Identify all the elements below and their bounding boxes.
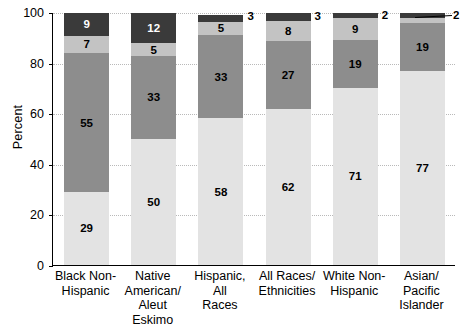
bar-segment[interactable]: 9 — [64, 13, 109, 36]
segment-callout-label: 3 — [315, 10, 321, 22]
bar-segment[interactable]: 2 — [333, 13, 378, 18]
bar-segment[interactable]: 71 — [333, 88, 378, 265]
bar-2[interactable]: 5033512 — [131, 13, 176, 265]
bar-segment[interactable]: 5 — [131, 43, 176, 56]
bar-segment[interactable]: 58 — [198, 118, 243, 265]
bar-1[interactable]: 295579 — [64, 13, 109, 265]
x-tick-label-line: Asian/ — [388, 269, 455, 284]
segment-value-label: 55 — [80, 117, 93, 129]
y-tick-20: 20 — [4, 215, 44, 228]
x-tick-label-line: Races — [186, 298, 253, 313]
x-tick-label-3: Hispanic,AllRaces — [186, 269, 253, 313]
plot-area: 2955795033512583353622783711992771922 — [52, 13, 455, 266]
x-tick-label-line: Hispanic, — [186, 269, 253, 284]
x-tick-label-line: American/ — [119, 284, 186, 299]
segment-value-label: 29 — [80, 222, 93, 234]
bar-5[interactable]: 711992 — [333, 13, 378, 265]
segment-value-label: 8 — [285, 25, 291, 37]
bar-6[interactable]: 771922 — [400, 13, 445, 265]
segment-value-label: 58 — [215, 186, 228, 198]
segment-value-label: 5 — [151, 44, 157, 56]
segment-callout-label: 3 — [247, 10, 253, 22]
bar-segment[interactable]: 29 — [64, 192, 109, 265]
y-tick-60: 60 — [4, 114, 44, 127]
x-tick-label-line: Hispanic — [321, 284, 388, 299]
x-tick-label-line: Eskimo — [119, 313, 186, 328]
x-tick-label-line: Aleut — [119, 298, 186, 313]
bar-segment[interactable]: 3 — [266, 13, 311, 21]
segment-value-label: 19 — [416, 41, 429, 53]
segment-value-label: 7 — [83, 38, 89, 50]
x-tick-label-line: White Non- — [321, 269, 388, 284]
segment-value-label: 19 — [349, 58, 362, 70]
bar-segment[interactable]: 3 — [198, 15, 243, 23]
x-tick-label-line: All Races/ — [254, 269, 321, 284]
y-tick-40: 40 — [4, 165, 44, 178]
y-tick-label: 0 — [4, 260, 44, 273]
bar-3[interactable]: 583353 — [198, 13, 243, 265]
x-tick-label-line: Islander — [388, 298, 455, 313]
x-tick-label-6: Asian/PacificIslander — [388, 269, 455, 313]
x-tick-label-line: All — [186, 284, 253, 299]
bar-segment[interactable]: 7 — [64, 36, 109, 54]
bar-segment[interactable]: 33 — [198, 35, 243, 118]
stacked-bar-chart: Percent 020406080100 2955795033512583353… — [0, 0, 473, 335]
bar-segment[interactable]: 8 — [266, 21, 311, 41]
x-tick-label-1: Black Non-Hispanic — [52, 269, 119, 298]
bar-4[interactable]: 622783 — [266, 13, 311, 265]
segment-value-label: 62 — [282, 181, 295, 193]
segment-callout-label: 2 — [382, 9, 388, 21]
bar-segment[interactable]: 2 — [400, 18, 445, 23]
x-tick-label-5: White Non-Hispanic — [321, 269, 388, 298]
y-tick-label: 60 — [4, 108, 44, 121]
y-tick-100: 100 — [4, 13, 44, 26]
segment-value-label: 9 — [352, 23, 358, 35]
segment-value-label: 71 — [349, 170, 362, 182]
x-tick-label-4: All Races/Ethnicities — [254, 269, 321, 298]
bar-segment[interactable]: 55 — [64, 53, 109, 192]
bar-group: 2955795033512583353622783711992771922 — [53, 13, 455, 265]
x-tick-label-line: Pacific — [388, 284, 455, 299]
bar-segment[interactable]: 9 — [333, 18, 378, 40]
x-tick-label-line: Black Non- — [52, 269, 119, 284]
x-tick-label-line: Native — [119, 269, 186, 284]
x-tick-label-line: Hispanic — [52, 284, 119, 299]
segment-value-label: 50 — [147, 196, 160, 208]
segment-value-label: 77 — [416, 162, 429, 174]
y-tick-80: 80 — [4, 64, 44, 77]
bar-segment[interactable]: 50 — [131, 139, 176, 265]
segment-value-label: 27 — [282, 69, 295, 81]
y-tick-0: 0 — [4, 266, 44, 279]
bar-segment[interactable]: 27 — [266, 41, 311, 109]
bar-segment[interactable]: 33 — [131, 56, 176, 139]
bar-segment[interactable]: 77 — [400, 71, 445, 265]
bar-segment[interactable]: 19 — [333, 40, 378, 87]
segment-value-label: 33 — [147, 91, 160, 103]
segment-value-label: 33 — [215, 71, 228, 83]
bar-segment[interactable]: 12 — [131, 13, 176, 43]
x-tick-label-line: Ethnicities — [254, 284, 321, 299]
x-tick-label-2: NativeAmerican/AleutEskimo — [119, 269, 186, 327]
bar-segment[interactable]: 62 — [266, 109, 311, 265]
y-tick-mark — [49, 266, 53, 267]
segment-callout-label: 2 — [453, 9, 459, 21]
y-tick-label: 80 — [4, 57, 44, 70]
bar-segment[interactable]: 5 — [198, 22, 243, 35]
y-tick-label: 40 — [4, 159, 44, 172]
segment-value-label: 9 — [83, 18, 89, 30]
x-axis-tick-labels: Black Non-HispanicNativeAmerican/AleutEs… — [52, 269, 455, 333]
segment-value-label: 12 — [147, 22, 160, 34]
y-tick-label: 100 — [4, 7, 44, 20]
y-tick-label: 20 — [4, 209, 44, 222]
segment-value-label: 5 — [218, 22, 224, 34]
bar-segment[interactable]: 19 — [400, 23, 445, 71]
